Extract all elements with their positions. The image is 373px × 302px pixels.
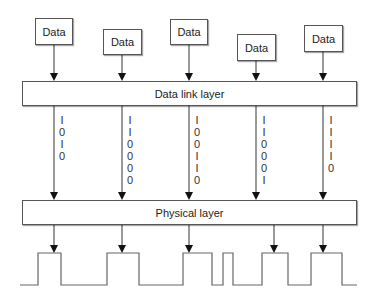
arrowhead-icon (319, 73, 327, 81)
bit-value: I (259, 174, 269, 186)
arrowhead-icon (50, 245, 58, 253)
arrowhead-icon (319, 192, 327, 200)
data-box-2: Data (103, 29, 142, 55)
bit-value: 0 (259, 162, 269, 174)
bit-column-4: II000I (259, 114, 269, 186)
data-box-3: Data (170, 19, 208, 45)
bit-value: 0 (259, 150, 269, 162)
physical-layer-box: Physical layer (22, 200, 357, 225)
arrowhead-icon (270, 245, 278, 253)
arrowhead-icon (185, 192, 193, 200)
bit-value: 0 (259, 138, 269, 150)
arrowhead-icon (118, 245, 126, 253)
bit-value: 0 (125, 162, 135, 174)
bit-column-5: IIII0 (326, 114, 336, 174)
arrowhead-icon (118, 192, 126, 200)
bit-value: I (259, 126, 269, 138)
bit-value: I (326, 138, 336, 150)
bit-value: I (326, 114, 336, 126)
arrowhead-icon (50, 192, 58, 200)
bit-value: 0 (57, 150, 67, 162)
bit-column-2: II0000 (125, 114, 135, 186)
bit-value: I (259, 114, 269, 126)
arrowhead-icon (185, 73, 193, 81)
arrowhead-icon (252, 73, 260, 81)
bit-value: I (57, 138, 67, 150)
bottom-arrows (50, 225, 327, 253)
bit-column-1: I0I0 (57, 114, 67, 162)
bit-value: 0 (192, 174, 202, 186)
data-link-layer-box: Data link layer (22, 81, 357, 106)
data-box-1: Data (35, 18, 73, 45)
bit-value: I (192, 114, 202, 126)
bit-value: 0 (125, 138, 135, 150)
bit-column-3: I00II0 (192, 114, 202, 186)
signal-waveform (20, 253, 357, 285)
bit-value: 0 (57, 126, 67, 138)
data-box-4: Data (237, 34, 276, 61)
bit-value: 0 (125, 150, 135, 162)
arrowhead-icon (118, 73, 126, 81)
arrowhead-icon (319, 245, 327, 253)
arrowhead-icon (185, 245, 193, 253)
arrowhead-icon (252, 192, 260, 200)
bit-value: I (326, 150, 336, 162)
bit-value: I (125, 114, 135, 126)
bit-value: I (192, 162, 202, 174)
bit-value: I (125, 126, 135, 138)
top-arrows (50, 45, 327, 81)
bit-value: I (57, 114, 67, 126)
bit-value: 0 (192, 126, 202, 138)
bit-value: 0 (125, 174, 135, 186)
bit-value: 0 (326, 162, 336, 174)
bit-value: 0 (192, 138, 202, 150)
data-box-5: Data (304, 25, 343, 52)
bit-value: I (192, 150, 202, 162)
middle-arrows (50, 106, 327, 200)
arrowhead-icon (50, 73, 58, 81)
bit-value: I (326, 126, 336, 138)
